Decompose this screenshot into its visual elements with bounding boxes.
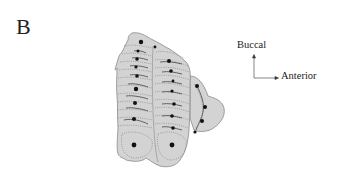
accessory-lobe — [190, 76, 224, 132]
tooth-occlusal-diagram — [0, 0, 339, 183]
orientation-label-anterior: Anterior — [281, 71, 317, 82]
orientation-label-buccal: Buccal — [237, 40, 266, 51]
arrow-right-icon — [275, 77, 279, 80]
orientation-indicator — [253, 55, 279, 80]
arrow-up-icon — [253, 55, 256, 59]
